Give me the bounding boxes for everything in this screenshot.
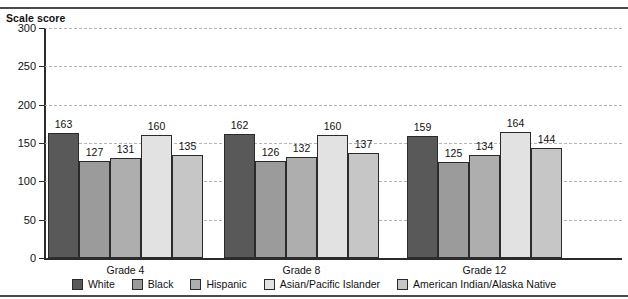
bar-value-label: 127 <box>86 146 104 158</box>
bar <box>110 158 141 258</box>
group-axis-label: Grade 4 <box>107 264 145 276</box>
group-axis-label: Grade 12 <box>463 264 507 276</box>
legend-swatch-icon <box>190 279 201 290</box>
legend-swatch-icon <box>132 279 143 290</box>
tick-mark <box>39 258 45 259</box>
chart-legend: WhiteBlackHispanicAsian/Pacific Islander… <box>0 278 628 290</box>
legend-label: American Indian/Alaska Native <box>413 278 556 290</box>
tick-mark <box>39 143 45 144</box>
bar <box>224 134 255 258</box>
bar-value-label: 132 <box>293 142 311 154</box>
group-axis-label: Grade 8 <box>283 264 321 276</box>
gridline <box>44 66 622 67</box>
bottom-divider <box>0 295 628 297</box>
bar-value-label: 135 <box>179 140 197 152</box>
legend-swatch-icon <box>264 279 275 290</box>
y-axis-tick-label: 100 <box>18 175 36 187</box>
legend-item: Asian/Pacific Islander <box>264 278 380 290</box>
gridline <box>44 105 622 106</box>
legend-item: White <box>72 278 115 290</box>
x-axis-line <box>44 258 622 260</box>
y-axis-tick-label: 250 <box>18 60 36 72</box>
bar-value-label: 131 <box>117 143 135 155</box>
tick-mark <box>39 66 45 67</box>
legend-item: Hispanic <box>190 278 246 290</box>
plot-area: 300250200150100500 163127131160135162126… <box>44 28 622 258</box>
bar <box>438 162 469 258</box>
legend-label: Asian/Pacific Islander <box>280 278 380 290</box>
bar-value-label: 164 <box>507 117 525 129</box>
bar <box>407 136 438 258</box>
bar-value-label: 160 <box>148 120 166 132</box>
y-axis-tick-label: 300 <box>18 22 36 34</box>
bar-value-label: 137 <box>355 138 373 150</box>
y-axis-tick-label: 200 <box>18 99 36 111</box>
bar <box>469 155 500 258</box>
legend-swatch-icon <box>397 279 408 290</box>
bar <box>79 161 110 258</box>
bar <box>255 161 286 258</box>
bar-value-label: 160 <box>324 120 342 132</box>
legend-item: American Indian/Alaska Native <box>397 278 556 290</box>
bar-value-label: 126 <box>262 146 280 158</box>
legend-label: White <box>88 278 115 290</box>
chart-figure: Scale score 300250200150100500 163127131… <box>0 0 628 299</box>
tick-mark <box>39 28 45 29</box>
bar <box>317 135 348 258</box>
bar <box>48 133 79 258</box>
bar-value-label: 134 <box>476 140 494 152</box>
y-axis-tick-label: 150 <box>18 137 36 149</box>
legend-item: Black <box>132 278 174 290</box>
bar-value-label: 125 <box>445 147 463 159</box>
bar-value-label: 163 <box>55 118 73 130</box>
legend-label: Black <box>148 278 174 290</box>
y-axis-tick-label: 0 <box>30 252 36 264</box>
tick-mark <box>39 220 45 221</box>
bar <box>348 153 379 258</box>
legend-label: Hispanic <box>206 278 246 290</box>
bar <box>172 155 203 259</box>
bar <box>286 157 317 258</box>
bar-value-label: 162 <box>231 119 249 131</box>
top-divider <box>0 7 628 9</box>
bar <box>500 132 531 258</box>
y-axis-tick-label: 50 <box>24 214 36 226</box>
bar <box>531 148 562 258</box>
tick-mark <box>39 105 45 106</box>
legend-swatch-icon <box>72 279 83 290</box>
bar <box>141 135 172 258</box>
tick-mark <box>39 181 45 182</box>
gridline <box>44 28 622 29</box>
bar-value-label: 144 <box>538 133 556 145</box>
bar-value-label: 159 <box>414 121 432 133</box>
